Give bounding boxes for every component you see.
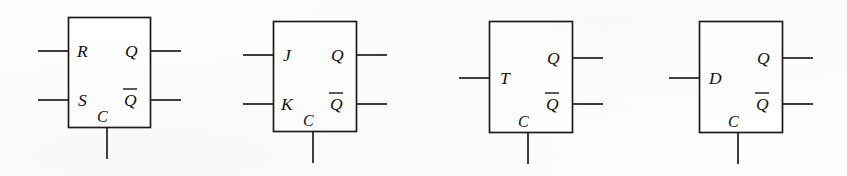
jk-input-j-label: J [283,45,292,65]
d-output-q-label: Q [757,48,770,68]
jk-clock-label: C [303,112,314,129]
rs-clock-label: C [97,108,108,125]
t-input-t-label: T [500,68,511,88]
rs-input-s-label: S [78,90,87,110]
rs-flip-flop: R S C Q Q [38,18,181,160]
d-clock-label: C [728,113,739,130]
rs-output-q-bar-label: Q [124,90,137,110]
flip-flop-symbols-figure: R S C Q Q J K C Q Q [0,0,847,176]
d-input-d-label: D [708,68,722,88]
figure-canvas: R S C Q Q J K C Q Q [0,0,847,176]
jk-flip-flop-body [274,22,357,132]
jk-output-q-label: Q [331,45,344,65]
rs-input-r-label: R [76,41,88,61]
d-output-q-bar-label: Q [756,94,769,114]
jk-flip-flop: J K C Q Q [243,22,387,164]
d-flip-flop: D C Q Q [669,22,813,165]
jk-output-q-bar-label: Q [330,94,343,114]
t-output-q-bar-label: Q [546,94,559,114]
t-flip-flop: T C Q Q [459,22,603,165]
t-output-q-label: Q [547,48,560,68]
t-clock-label: C [518,113,529,130]
rs-output-q-label: Q [125,41,138,61]
rs-flip-flop-body [69,18,151,128]
jk-input-k-label: K [280,94,294,114]
